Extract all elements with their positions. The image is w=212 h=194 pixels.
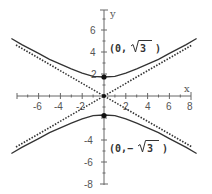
label-text: ) xyxy=(162,143,168,154)
y-tick-label: -8 xyxy=(84,179,93,190)
vertex-bottom-point xyxy=(101,113,106,118)
y-tick-label: 4 xyxy=(90,47,96,58)
label-text: (0,− xyxy=(109,143,133,154)
label-text: 3 xyxy=(147,143,153,154)
label-text: ) xyxy=(155,43,161,54)
label-text: (0, xyxy=(109,43,127,54)
x-tick-label: 4 xyxy=(145,101,151,112)
x-tick-label: 8 xyxy=(187,101,193,112)
x-tick-label: 6 xyxy=(166,101,172,112)
y-tick-label: -4 xyxy=(84,135,93,146)
x-axis-label: x xyxy=(184,83,190,94)
center-point xyxy=(102,94,106,98)
x-tick-label: -6 xyxy=(33,101,42,112)
y-tick-label: -6 xyxy=(84,157,93,168)
hyperbola-chart: -6 -4 -2 2 4 6 8 6 4 2 -4 -6 -8 y x (0, … xyxy=(0,0,212,194)
y-tick-label: 6 xyxy=(90,25,96,36)
label-text: 3 xyxy=(140,43,146,54)
x-tick-label: -4 xyxy=(54,101,63,112)
y-axis-label: y xyxy=(109,8,116,19)
y-tick-label: 2 xyxy=(91,69,97,80)
bottom-vertex-label: (0,− 3 ) xyxy=(109,141,168,155)
y-tick-labels: 6 4 2 -4 -6 -8 xyxy=(84,25,97,190)
vertex-top-point xyxy=(101,74,106,79)
x-tick-labels: -6 -4 -2 2 4 6 8 xyxy=(33,101,193,112)
top-vertex-label: (0, 3 ) xyxy=(109,41,161,55)
x-tick-label: -2 xyxy=(76,101,85,112)
